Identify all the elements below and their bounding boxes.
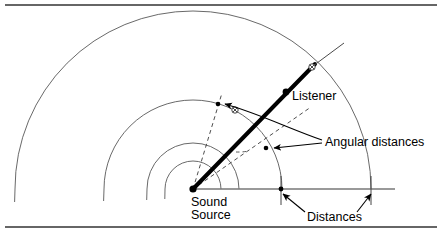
outer-arc-intersection-marker [309,64,315,70]
angular-distances-label: Angular distances [325,135,424,149]
dashed-angular-rays [193,93,311,189]
distances-label: Distances [307,210,362,224]
distance-point-1 [279,187,284,192]
sound-source-label-line1: Sound [191,195,227,209]
distance-tick-marks [281,176,371,205]
dashed-ray-lower [193,107,311,189]
angular-distances-leader-lower [274,143,322,148]
listener-ray-extension [313,43,344,66]
angular-distance-point-upper [216,102,221,107]
listener-point [283,89,290,96]
distances-leader-right [357,194,371,212]
wavefront-arc-2 [147,143,239,189]
distances-leaders [283,194,371,212]
sound-source-label-line2: Source [191,208,231,222]
sound-source-distance-diagram: Sound Source Listener Angular distances … [0,0,442,236]
wavefront-arc-3 [104,100,282,189]
listener-ray [193,64,315,189]
sound-source-point [189,185,196,192]
distances-leader-left [283,194,305,212]
wavefront-arcs [15,11,371,202]
figure-page: Sound Source Listener Angular distances … [0,0,442,236]
angular-distance-point-lower [264,146,269,151]
listener-label: Listener [292,89,336,103]
